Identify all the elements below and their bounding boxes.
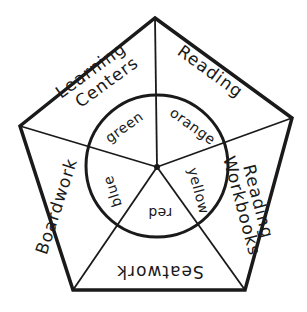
outer-label-seatwork: Seatwork	[116, 262, 203, 282]
outer-label-learning-centers: Learning Centers	[52, 37, 142, 118]
pentagon-wheel-diagram: Reading Reading Workbooks Seatwork Board…	[0, 0, 307, 312]
outer-label-reading-workbooks: Reading Workbooks	[219, 149, 281, 257]
spoke-top	[155, 18, 157, 167]
inner-label-orange: orange	[167, 104, 219, 148]
inner-label-yellow: yellow	[185, 166, 213, 216]
outer-label-reading: Reading	[174, 41, 247, 102]
center-dot	[154, 164, 160, 170]
inner-label-red: red	[148, 205, 172, 221]
inner-label-blue: blue	[100, 174, 125, 210]
